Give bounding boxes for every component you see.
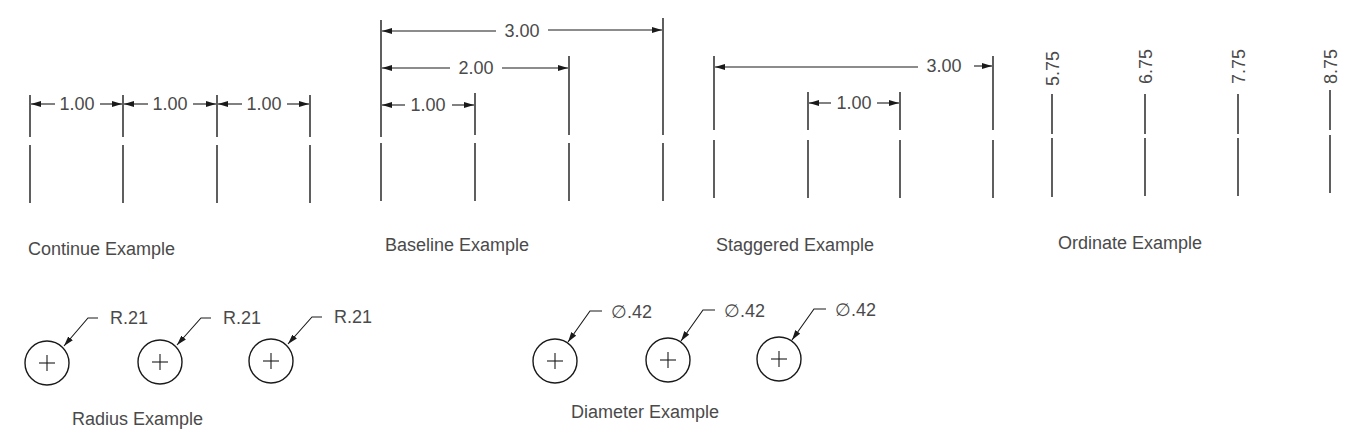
circle-feature xyxy=(646,310,715,382)
example-title: Diameter Example xyxy=(571,402,719,422)
circle-feature xyxy=(138,318,211,384)
diameter-example: ∅.42 ∅.42 ∅.42 Diameter Example xyxy=(533,300,876,422)
dimension-lines xyxy=(382,30,662,105)
circle-feature xyxy=(25,318,98,385)
dim-value: 1.00 xyxy=(59,94,94,114)
dim-value: 3.00 xyxy=(504,21,539,41)
extension-lines xyxy=(714,56,993,198)
dim-value: 1.00 xyxy=(410,95,445,115)
circle-feature xyxy=(533,311,602,383)
ordinate-lines xyxy=(1052,90,1330,197)
radius-example: R.21 R.21 R.21 Radius Example xyxy=(25,307,372,429)
ordinate-value: 6.75 xyxy=(1136,49,1156,84)
staggered-example: 3.00 1.00 Staggered Example xyxy=(714,56,993,255)
dimensioning-diagram: 1.00 1.00 1.00 Continue Example 3.00 2.0… xyxy=(0,0,1366,441)
diameter-value: ∅.42 xyxy=(835,300,876,320)
dim-value: 1.00 xyxy=(152,94,187,114)
example-title: Continue Example xyxy=(28,239,175,259)
example-title: Staggered Example xyxy=(716,235,874,255)
radius-value: R.21 xyxy=(334,307,372,327)
example-title: Radius Example xyxy=(72,409,203,429)
dim-value: 3.00 xyxy=(926,56,961,76)
diameter-value: ∅.42 xyxy=(724,301,765,321)
circle-feature xyxy=(757,309,826,381)
dim-value: 1.00 xyxy=(836,93,871,113)
continue-example: 1.00 1.00 1.00 Continue Example xyxy=(28,94,310,259)
radius-value: R.21 xyxy=(223,308,261,328)
dim-value: 2.00 xyxy=(458,58,493,78)
baseline-example: 3.00 2.00 1.00 Baseline Example xyxy=(381,18,663,255)
ordinate-value: 5.75 xyxy=(1043,51,1063,86)
example-title: Baseline Example xyxy=(385,235,529,255)
ordinate-example: 5.75 6.75 7.75 8.75 Ordinate Example xyxy=(1043,49,1341,253)
radius-value: R.21 xyxy=(110,308,148,328)
ordinate-value: 8.75 xyxy=(1321,49,1341,84)
diameter-value: ∅.42 xyxy=(611,302,652,322)
example-title: Ordinate Example xyxy=(1058,233,1202,253)
dim-value: 1.00 xyxy=(246,94,281,114)
ordinate-value: 7.75 xyxy=(1229,49,1249,84)
